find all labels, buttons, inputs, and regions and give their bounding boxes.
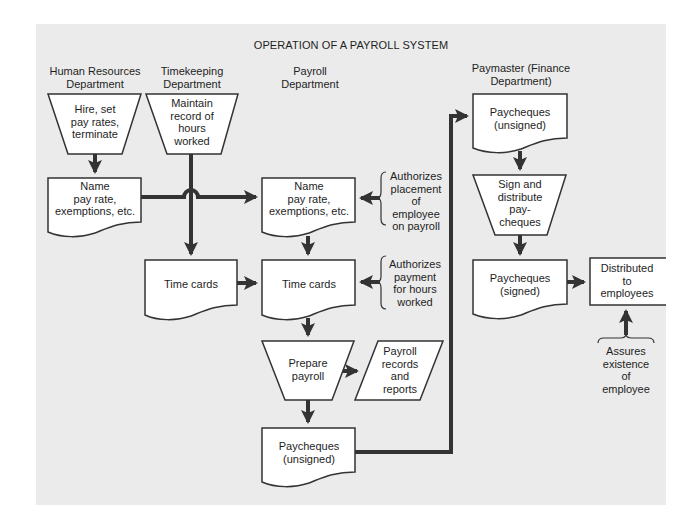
node-tk-timecards: Time cards <box>164 278 218 291</box>
node-pm-paycheques-unsigned: Paycheques (unsigned) <box>490 106 551 131</box>
node-text: employees <box>600 287 653 300</box>
node-text: reports <box>382 383 419 396</box>
node-text: Maintain <box>170 97 213 110</box>
dept-pm-line-2: Department) <box>472 75 570 88</box>
brace-placement <box>377 172 386 225</box>
node-text: Time cards <box>282 278 336 291</box>
node-tk-maintain: Maintain record of hours worked <box>170 97 213 147</box>
annotation-assures-existence: Assures existence of employee <box>602 345 650 395</box>
annotation-text: on payroll <box>390 220 442 233</box>
annotation-text: Authorizes <box>390 170 442 183</box>
annotation-text: worked <box>389 296 441 309</box>
node-text: and <box>382 370 419 383</box>
node-text: (unsigned) <box>490 119 551 132</box>
node-text: exemptions, etc. <box>269 205 349 218</box>
annotation-text: placement <box>390 183 442 196</box>
node-text: Name <box>55 180 135 193</box>
node-text: pay rate, <box>269 193 349 206</box>
annotation-text: of <box>390 195 442 208</box>
node-text: Payroll <box>382 345 419 358</box>
node-text: worked <box>170 135 213 148</box>
node-text: (signed) <box>490 285 551 298</box>
node-text: Hire, set <box>71 103 119 116</box>
dept-paymaster-heading: Paymaster (Finance Department) <box>472 62 570 88</box>
node-text: pay rate, <box>55 193 135 206</box>
node-text: exemptions, etc. <box>55 205 135 218</box>
dept-pm-line-1: Paymaster (Finance <box>472 62 570 75</box>
node-text: hours <box>170 122 213 135</box>
dept-timekeeping-heading: Timekeeping Department <box>161 65 224 91</box>
annotation-authorizes-payment: Authorizes payment for hours worked <box>389 258 441 308</box>
annotation-text: of <box>602 370 650 383</box>
node-pr-records: Payroll records and reports <box>382 345 419 395</box>
node-pr-name-doc: Name pay rate, exemptions, etc. <box>269 180 349 218</box>
node-text: Sign and <box>498 178 543 191</box>
node-pr-timecards: Time cards <box>282 278 336 291</box>
annotation-authorizes-placement: Authorizes placement of employee on payr… <box>390 170 442 233</box>
dept-hr-line-2: Department <box>49 78 140 91</box>
node-text: terminate <box>71 128 119 141</box>
node-text: to <box>600 275 653 288</box>
node-distributed: Distributed to employees <box>600 262 653 300</box>
dept-pr-line-2: Department <box>281 78 338 91</box>
node-pm-sign: Sign and distribute pay- cheques <box>498 178 543 228</box>
node-text: cheques <box>498 216 543 229</box>
brace-assures <box>598 334 654 343</box>
dept-pr-line-1: Payroll <box>281 65 338 78</box>
node-text: Prepare <box>288 357 327 370</box>
node-text: Paycheques <box>279 440 340 453</box>
node-pm-paycheques-signed: Paycheques (signed) <box>490 272 551 297</box>
dept-tk-line-2: Department <box>161 78 224 91</box>
node-pr-prepare: Prepare payroll <box>288 357 327 382</box>
dept-payroll-heading: Payroll Department <box>281 65 338 91</box>
node-text: Time cards <box>164 278 218 291</box>
node-text: pay rates, <box>71 116 119 129</box>
annotation-text: for hours <box>389 283 441 296</box>
annotation-text: employee <box>390 208 442 221</box>
dept-hr-line-1: Human Resources <box>49 65 140 78</box>
node-text: payroll <box>288 370 327 383</box>
node-text: records <box>382 358 419 371</box>
annotation-text: Authorizes <box>389 258 441 271</box>
node-text: Paycheques <box>490 272 551 285</box>
annotation-text: employee <box>602 383 650 396</box>
annotation-text: payment <box>389 271 441 284</box>
brace-payment <box>377 256 386 309</box>
node-text: pay- <box>498 203 543 216</box>
annotation-text: Assures <box>602 345 650 358</box>
node-hr-hire: Hire, set pay rates, terminate <box>71 103 119 141</box>
diagram-title: OPERATION OF A PAYROLL SYSTEM <box>254 39 448 52</box>
node-text: (unsigned) <box>279 453 340 466</box>
node-pr-paycheques: Paycheques (unsigned) <box>279 440 340 465</box>
dept-tk-line-1: Timekeeping <box>161 65 224 78</box>
node-text: distribute <box>498 191 543 204</box>
annotation-text: existence <box>602 358 650 371</box>
node-text: Distributed <box>600 262 653 275</box>
node-text: Name <box>269 180 349 193</box>
dept-hr-heading: Human Resources Department <box>49 65 140 91</box>
node-text: Paycheques <box>490 106 551 119</box>
node-hr-name-doc: Name pay rate, exemptions, etc. <box>55 180 135 218</box>
node-text: record of <box>170 110 213 123</box>
